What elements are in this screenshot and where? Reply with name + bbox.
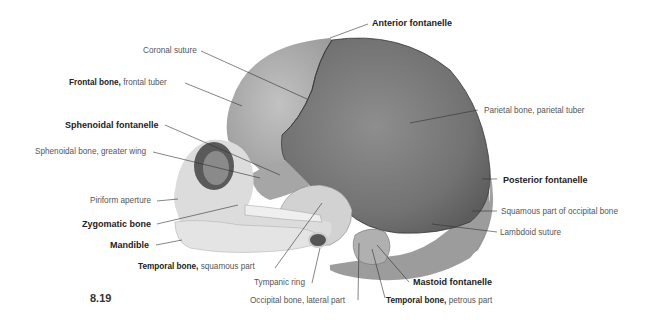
label-occipital-lateral: Occipital bone, lateral part: [250, 296, 345, 306]
skull-illustration: [0, 0, 660, 327]
label-temporal-petrous-bold: Temporal bone,: [386, 296, 446, 305]
label-parietal-bone: Parietal bone, parietal tuber: [484, 106, 585, 116]
label-zygomatic-bone: Zygomatic bone: [82, 219, 151, 229]
label-sphenoidal-bone: Sphenoidal bone, greater wing: [35, 147, 146, 157]
label-piriform-aperture: Piriform aperture: [90, 196, 151, 206]
label-lambdoid-suture: Lambdoid suture: [500, 228, 561, 238]
label-temporal-squamous-rest: squamous part: [198, 262, 254, 271]
label-mastoid-fontanelle: Mastoid fontanelle: [413, 277, 492, 287]
label-posterior-fontanelle: Posterior fontanelle: [503, 175, 588, 185]
label-squamous-occipital: Squamous part of occipital bone: [501, 207, 618, 217]
label-temporal-squamous-bold: Temporal bone,: [138, 262, 198, 271]
label-temporal-petrous: Temporal bone, petrous part: [386, 296, 492, 306]
label-frontal-bone: Frontal bone, frontal tuber: [69, 78, 167, 88]
label-sphenoidal-fontanelle: Sphenoidal fontanelle: [65, 120, 159, 130]
label-tympanic-ring: Tympanic ring: [254, 278, 305, 288]
label-temporal-squamous: Temporal bone, squamous part: [138, 262, 255, 272]
tympanic-ring-shape: [309, 233, 327, 247]
label-mandible: Mandible: [110, 240, 149, 250]
label-anterior-fontanelle: Anterior fontanelle: [372, 18, 452, 28]
label-temporal-petrous-rest: petrous part: [446, 296, 492, 305]
label-coronal-suture: Coronal suture: [143, 46, 197, 56]
label-frontal-bone-rest: frontal tuber: [121, 78, 167, 87]
figure-number: 8.19: [90, 292, 111, 304]
label-frontal-bone-bold: Frontal bone,: [69, 78, 121, 87]
